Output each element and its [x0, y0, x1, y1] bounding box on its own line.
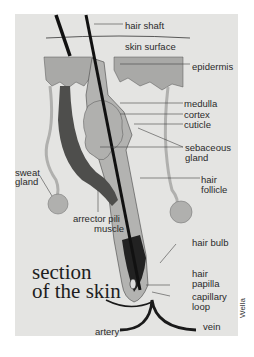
label-muscle: muscle — [94, 224, 124, 233]
label-sweat-gland: gland — [15, 177, 38, 186]
label-skin-surface: skin surface — [125, 42, 176, 51]
label-hair-bulb: hair bulb — [192, 238, 228, 247]
label-hair: hair — [201, 175, 217, 184]
label-arrector-pili: arrector pili — [73, 214, 120, 223]
sweat-coil-left — [48, 194, 68, 214]
epidermis-right — [114, 57, 183, 90]
label-artery: artery — [95, 327, 119, 336]
artery-vein — [120, 300, 196, 330]
label-cuticle: cuticle — [184, 120, 211, 129]
label-vein: vein — [203, 322, 220, 331]
credit-text: Wella — [238, 298, 247, 318]
sweat-coil-right — [170, 201, 192, 223]
label-epidermis: epidermis — [192, 62, 233, 71]
label-papilla: papilla — [192, 279, 219, 288]
label-sebaceous-gland: gland — [185, 153, 208, 162]
label-medulla: medulla — [184, 99, 217, 108]
label-papilla-hair: hair — [192, 269, 208, 278]
label-capillary: capillary — [192, 292, 227, 301]
label-hair-follicle: follicle — [201, 185, 227, 194]
sweat-duct-left — [46, 86, 58, 200]
label-loop: loop — [192, 302, 210, 311]
label-hair-shaft: hair shaft — [125, 21, 164, 30]
figure-title: section of the skin — [32, 263, 121, 301]
papilla-shape — [130, 279, 136, 289]
label-cortex: cortex — [184, 110, 210, 119]
skin-surface-line — [46, 36, 190, 38]
title-line-2: of the skin — [32, 282, 121, 301]
label-sebaceous: sebaceous — [185, 143, 231, 152]
hair-shaft-short — [56, 15, 70, 56]
sweat-duct-right — [165, 87, 177, 208]
